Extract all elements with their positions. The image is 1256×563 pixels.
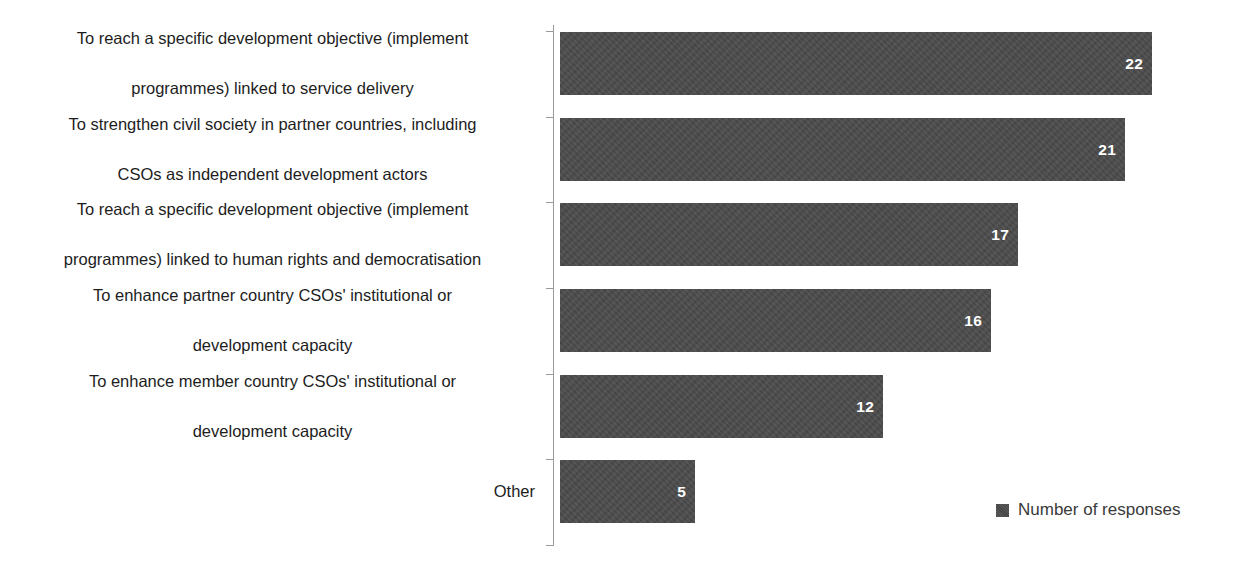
category-label-line: Other: [10, 479, 535, 504]
chart-legend: Number of responses: [996, 500, 1181, 520]
category-label: To enhance partner country CSOs' institu…: [10, 278, 543, 364]
bar-value-label: 22: [1125, 55, 1143, 73]
bar-container: 21: [560, 118, 1125, 181]
bar[interactable]: 17: [560, 203, 1018, 266]
bar-row: To reach a specific development objectiv…: [0, 21, 1256, 107]
bar-value-label: 21: [1098, 141, 1116, 159]
bar-container: 22: [560, 32, 1152, 95]
bar[interactable]: 12: [560, 375, 883, 438]
bar-value-label: 17: [991, 226, 1009, 244]
bar-container: 12: [560, 375, 883, 438]
category-label: To enhance member country CSOs' institut…: [10, 364, 543, 450]
bar-row: To reach a specific development objectiv…: [0, 192, 1256, 278]
category-label: To strengthen civil society in partner c…: [10, 107, 543, 193]
category-label: Other: [10, 449, 543, 535]
category-label: To reach a specific development objectiv…: [10, 192, 543, 278]
bar[interactable]: 22: [560, 32, 1152, 95]
plot-area: To reach a specific development objectiv…: [0, 0, 1256, 563]
bar[interactable]: 16: [560, 289, 991, 352]
bar-container: 5: [560, 460, 695, 523]
bar-value-label: 16: [964, 312, 982, 330]
category-label-line: CSOs as independent development actors: [10, 162, 535, 187]
bar-value-label: 5: [677, 483, 686, 501]
axis-tick: [546, 545, 553, 546]
category-label-line: To enhance partner country CSOs' institu…: [10, 283, 535, 308]
category-label-line: To enhance member country CSOs' institut…: [10, 369, 535, 394]
legend-swatch-icon: [996, 504, 1009, 517]
category-label-line: programmes) linked to human rights and d…: [10, 247, 535, 272]
horizontal-bar-chart: To reach a specific development objectiv…: [0, 0, 1256, 563]
bar-row: Other 5: [0, 449, 1256, 535]
bar[interactable]: 21: [560, 118, 1125, 181]
category-label-line: programmes) linked to service delivery: [10, 76, 535, 101]
category-label-line: To reach a specific development objectiv…: [10, 26, 535, 51]
bar-row: To enhance member country CSOs' institut…: [0, 364, 1256, 450]
category-label-line: development capacity: [10, 333, 535, 358]
bar-row: To enhance partner country CSOs' institu…: [0, 278, 1256, 364]
category-label: To reach a specific development objectiv…: [10, 21, 543, 107]
category-label-line: development capacity: [10, 419, 535, 444]
bar-container: 17: [560, 203, 1018, 266]
category-label-line: To strengthen civil society in partner c…: [10, 112, 535, 137]
bar-container: 16: [560, 289, 991, 352]
bar-value-label: 12: [856, 398, 874, 416]
category-label-line: To reach a specific development objectiv…: [10, 197, 535, 222]
bar[interactable]: 5: [560, 460, 695, 523]
legend-label: Number of responses: [1018, 500, 1181, 520]
bar-row: To strengthen civil society in partner c…: [0, 107, 1256, 193]
